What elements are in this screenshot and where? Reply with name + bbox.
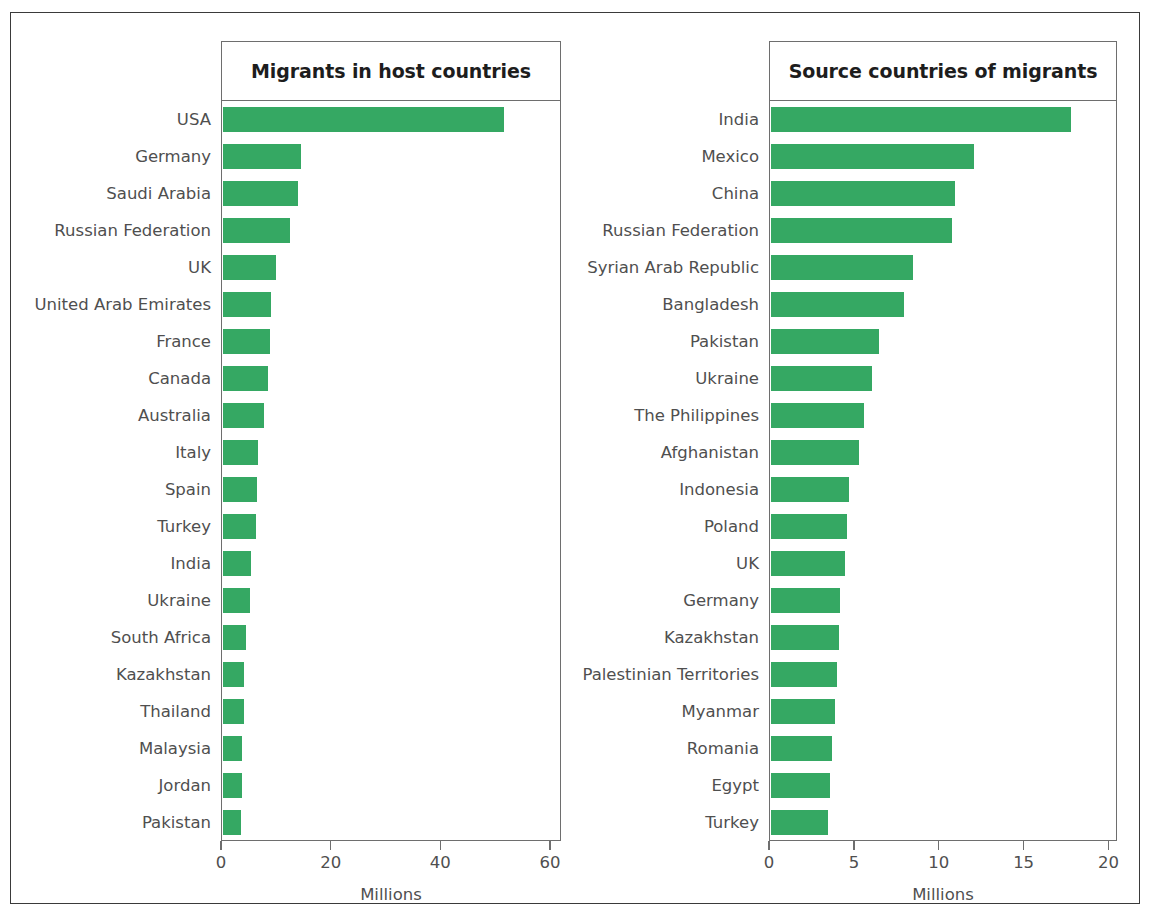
category-label-right: China xyxy=(712,184,759,203)
bar-row: The Philippines xyxy=(770,403,1116,428)
category-label-left: Jordan xyxy=(159,776,212,795)
bar-right xyxy=(771,662,837,687)
category-label-right: Indonesia xyxy=(679,480,759,499)
bar-left xyxy=(223,588,250,613)
category-label-right: Bangladesh xyxy=(662,295,759,314)
x-tick-label: 10 xyxy=(928,853,949,872)
bar-row: Russian Federation xyxy=(222,218,560,243)
bar-series-right: IndiaMexicoChinaRussian FederationSyrian… xyxy=(770,101,1116,840)
category-label-left: Kazakhstan xyxy=(116,665,211,684)
x-tick-label: 40 xyxy=(430,853,451,872)
bar-left xyxy=(223,218,290,243)
category-label-left: South Africa xyxy=(111,628,211,647)
bar-left xyxy=(223,625,246,650)
bar-row: Kazakhstan xyxy=(222,662,560,687)
bar-left xyxy=(223,810,241,835)
bar-row: China xyxy=(770,181,1116,206)
bar-row: United Arab Emirates xyxy=(222,292,560,317)
bar-left xyxy=(223,773,242,798)
category-label-left: Australia xyxy=(138,406,211,425)
bar-right xyxy=(771,588,840,613)
x-tick-label: 0 xyxy=(764,853,775,872)
category-label-right: Pakistan xyxy=(690,332,759,351)
category-label-right: India xyxy=(719,110,760,129)
category-label-left: Italy xyxy=(175,443,211,462)
category-label-right: Mexico xyxy=(701,147,759,166)
x-axis-title-right: Millions xyxy=(769,885,1117,904)
bar-row: Russian Federation xyxy=(770,218,1116,243)
bar-row: Kazakhstan xyxy=(770,625,1116,650)
bar-right xyxy=(771,107,1071,132)
figure-frame: Migrants in host countries USAGermanySau… xyxy=(10,12,1140,904)
panel-migrants-host-countries: Migrants in host countries USAGermanySau… xyxy=(221,41,561,841)
bar-right xyxy=(771,218,952,243)
bar-row: Turkey xyxy=(222,514,560,539)
category-label-left: UK xyxy=(188,258,211,277)
bar-right xyxy=(771,810,828,835)
x-tick xyxy=(1023,841,1024,850)
bar-row: Thailand xyxy=(222,699,560,724)
bar-row: India xyxy=(770,107,1116,132)
x-axis-left: Millions 0204060 xyxy=(221,841,561,922)
x-tick xyxy=(938,841,939,850)
category-label-right: Kazakhstan xyxy=(664,628,759,647)
x-tick-label: 20 xyxy=(320,853,341,872)
category-label-left: United Arab Emirates xyxy=(34,295,211,314)
x-tick xyxy=(1108,841,1109,850)
category-label-left: Pakistan xyxy=(142,813,211,832)
bar-row: Syrian Arab Republic xyxy=(770,255,1116,280)
bar-row: Indonesia xyxy=(770,477,1116,502)
bar-left xyxy=(223,144,301,169)
category-label-right: Germany xyxy=(683,591,759,610)
bar-row: Mexico xyxy=(770,144,1116,169)
panel-title-right: Source countries of migrants xyxy=(770,42,1116,100)
bar-row: Poland xyxy=(770,514,1116,539)
bar-row: USA xyxy=(222,107,560,132)
bar-left xyxy=(223,255,276,280)
bar-row: South Africa xyxy=(222,625,560,650)
bar-row: Pakistan xyxy=(222,810,560,835)
category-label-right: Syrian Arab Republic xyxy=(587,258,759,277)
bar-row: UK xyxy=(770,551,1116,576)
category-label-right: Romania xyxy=(687,739,759,758)
x-axis-right: Millions 05101520 xyxy=(769,841,1117,922)
panel-source-countries: Source countries of migrants IndiaMexico… xyxy=(769,41,1117,841)
bar-right xyxy=(771,181,955,206)
bar-row: Palestinian Territories xyxy=(770,662,1116,687)
x-tick xyxy=(768,841,769,850)
x-tick-label: 20 xyxy=(1098,853,1119,872)
bar-row: Malaysia xyxy=(222,736,560,761)
category-label-right: Turkey xyxy=(705,813,759,832)
category-label-right: Myanmar xyxy=(681,702,759,721)
bar-row: Romania xyxy=(770,736,1116,761)
bar-right xyxy=(771,144,974,169)
bar-row: France xyxy=(222,329,560,354)
bar-row: Egypt xyxy=(770,773,1116,798)
bar-right xyxy=(771,699,835,724)
bar-row: Pakistan xyxy=(770,329,1116,354)
bar-left xyxy=(223,736,242,761)
bar-row: India xyxy=(222,551,560,576)
category-label-left: Ukraine xyxy=(147,591,211,610)
category-label-right: The Philippines xyxy=(634,406,759,425)
bar-right xyxy=(771,255,913,280)
bar-left xyxy=(223,329,270,354)
bar-right xyxy=(771,736,832,761)
bar-left xyxy=(223,292,271,317)
bar-series-left: USAGermanySaudi ArabiaRussian Federation… xyxy=(222,101,560,840)
bar-row: Canada xyxy=(222,366,560,391)
bar-row: Jordan xyxy=(222,773,560,798)
category-label-left: Saudi Arabia xyxy=(106,184,211,203)
bar-left xyxy=(223,514,256,539)
x-tick-label: 15 xyxy=(1013,853,1034,872)
bar-right xyxy=(771,773,830,798)
bar-row: Turkey xyxy=(770,810,1116,835)
panel-title-left: Migrants in host countries xyxy=(222,42,560,100)
bar-left xyxy=(223,551,251,576)
category-label-right: Afghanistan xyxy=(661,443,759,462)
category-label-right: Poland xyxy=(704,517,759,536)
bar-left xyxy=(223,107,504,132)
x-axis-title-left: Millions xyxy=(221,885,561,904)
bar-left xyxy=(223,366,268,391)
category-label-left: Russian Federation xyxy=(54,221,211,240)
